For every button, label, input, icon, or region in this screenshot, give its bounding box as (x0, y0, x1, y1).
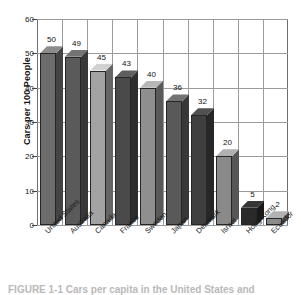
y-tick-label: 10 (12, 187, 34, 196)
bar-value-label: 20 (213, 138, 243, 147)
bar-value-label: 32 (188, 97, 218, 106)
bar-side-face (81, 50, 88, 225)
bar (166, 94, 182, 225)
bar-side-face (156, 81, 163, 225)
bar-side-face (106, 64, 113, 226)
bar-value-label: 49 (62, 39, 92, 48)
y-tick-label: 0 (12, 221, 34, 230)
bar-side-face (207, 108, 214, 225)
bar-front-face (90, 71, 106, 226)
y-tick-label: 20 (12, 152, 34, 161)
bar-value-label: 43 (112, 59, 142, 68)
bar (40, 46, 56, 225)
y-tick-label: 50 (12, 49, 34, 58)
gridline-vertical (163, 19, 164, 225)
figure-caption: FIGURE 1-1 Cars per capita in the United… (8, 284, 298, 295)
bar (90, 64, 106, 226)
bar-side-face (56, 46, 63, 225)
y-tick-label: 40 (12, 84, 34, 93)
bar-value-label: 36 (163, 83, 193, 92)
plot-area: 504945434036322052 (37, 19, 288, 225)
bar-value-label: 40 (137, 70, 167, 79)
bar-front-face (40, 53, 56, 225)
bar (191, 108, 207, 225)
bar (115, 70, 131, 225)
bar-side-face (232, 149, 239, 225)
bar-side-face (131, 70, 138, 225)
bar-value-label: 5 (238, 190, 268, 199)
bar-front-face (115, 77, 131, 225)
bar-front-face (191, 115, 207, 225)
bar (140, 81, 156, 225)
y-tick-label: 60 (12, 15, 34, 24)
bar-front-face (166, 101, 182, 225)
bar-front-face (140, 88, 156, 225)
y-tick-label: 30 (12, 118, 34, 127)
bar-side-face (182, 94, 189, 225)
